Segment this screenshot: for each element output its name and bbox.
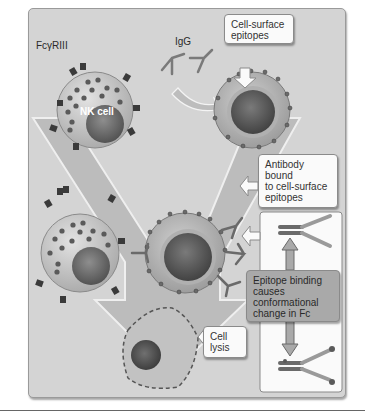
callout-line: causes [253, 286, 333, 297]
callout-line: Epitope binding [253, 275, 333, 286]
callout-cell-lysis: Cell lysis [203, 326, 247, 358]
callout-line: epitopes [265, 192, 331, 203]
callout-line: Cell [210, 331, 240, 342]
callout-line: lysis [210, 342, 240, 353]
callout-line: Cell-surface [231, 19, 287, 30]
callout-cell-surface-epitopes: Cell-surface epitopes [224, 14, 294, 44]
divider-line [0, 410, 365, 411]
callout-line: Antibody [265, 159, 331, 170]
callout-antibody-bound: Antibody bound to cell-surface epitopes [258, 154, 338, 208]
callout-epitope-binding: Epitope binding causes conformational ch… [246, 270, 340, 322]
fc-receptor-label: FcγRIII [36, 40, 68, 51]
nk-cell-label: NK cell [80, 106, 114, 117]
igg-label: IgG [175, 36, 191, 47]
callout-line: bound [265, 170, 331, 181]
callout-line: change in Fc [253, 308, 333, 319]
callout-line: to cell-surface [265, 181, 331, 192]
callout-line: conformational [253, 297, 333, 308]
igg-antibodies [162, 50, 212, 74]
callout-line: epitopes [231, 30, 287, 41]
